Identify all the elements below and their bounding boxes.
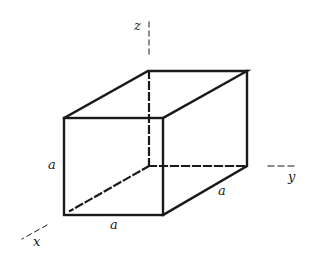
prism-diagram	[0, 0, 314, 262]
right-face-edges	[163, 71, 247, 215]
z-axis-label: z	[134, 19, 141, 32]
top-face-edges	[64, 71, 247, 118]
depth-label: a	[218, 184, 226, 197]
width-label: a	[110, 218, 118, 231]
height-label: a	[48, 158, 56, 171]
hidden-edge-diagonal	[70, 166, 149, 211]
y-axis-label: y	[288, 170, 295, 183]
x-axis-label: x	[33, 235, 40, 248]
